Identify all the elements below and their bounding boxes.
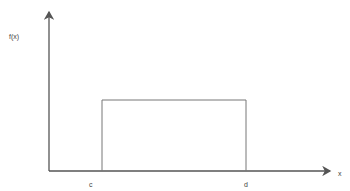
lower-bound-label: c [89,181,93,188]
pdf-diagram [0,0,350,191]
y-axis-label: f(x) [9,33,19,40]
x-axis-label: x [338,170,342,177]
uniform-density-rectangle [102,100,246,171]
upper-bound-label: d [244,181,248,188]
